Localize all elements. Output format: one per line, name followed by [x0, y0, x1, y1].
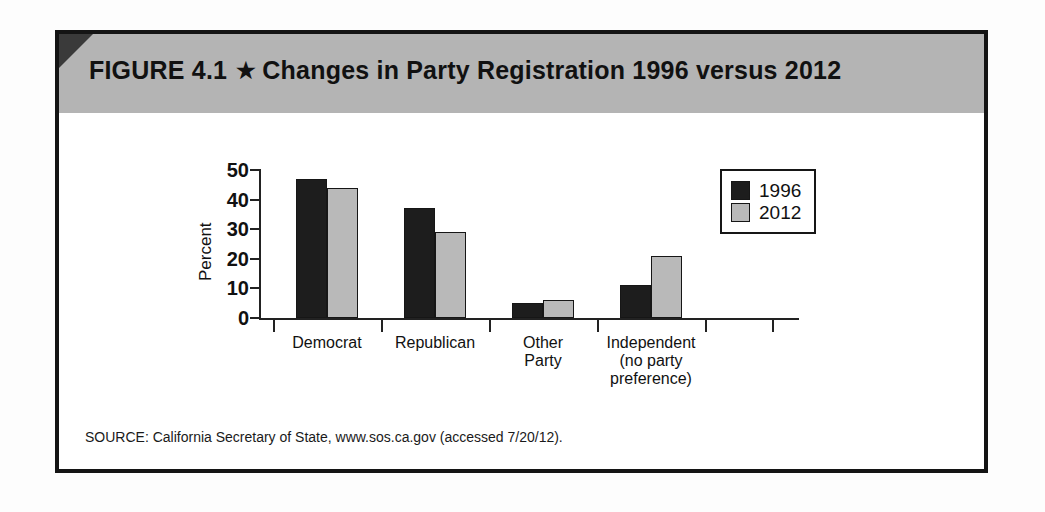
- x-separator-tick: [705, 320, 707, 332]
- category-label-line: Independent: [581, 334, 721, 352]
- x-separator-tick: [772, 320, 774, 332]
- legend-swatch-2012-icon: [731, 203, 750, 222]
- figure-title-text: Changes in Party Registration 1996 versu…: [262, 56, 841, 84]
- x-separator-tick: [489, 320, 491, 332]
- source-note: SOURCE: California Secretary of State, w…: [85, 429, 563, 445]
- bar-1996-democrat: [296, 179, 327, 318]
- legend-item: 1996: [731, 181, 801, 200]
- legend-swatch-1996-icon: [731, 181, 750, 200]
- corner-triangle-icon: [59, 34, 93, 68]
- star-icon: ★: [230, 58, 262, 83]
- bar-2012-independent: [651, 256, 682, 318]
- legend-item: 2012: [731, 203, 801, 222]
- category-label-line: (no party: [581, 352, 721, 370]
- bar-2012-republican: [435, 232, 466, 318]
- chart-plot-area: Percent 01020304050 DemocratRepublicanOt…: [59, 113, 984, 477]
- x-axis-line: [259, 318, 799, 320]
- bar-1996-independent: [620, 285, 651, 318]
- chart-legend: 1996 2012: [720, 169, 816, 234]
- legend-label-1996: 1996: [759, 181, 801, 200]
- bars-layer: [259, 170, 799, 318]
- y-tick-label: 0: [209, 308, 249, 328]
- y-tick-label: 20: [209, 249, 249, 269]
- y-tick-label: 10: [209, 278, 249, 298]
- bar-1996-other: [512, 303, 543, 318]
- bar-1996-republican: [404, 208, 435, 318]
- y-tick-label: 40: [209, 190, 249, 210]
- x-separator-tick: [597, 320, 599, 332]
- y-tick-label: 30: [209, 219, 249, 239]
- figure-number: FIGURE 4.1: [89, 56, 230, 84]
- figure-title: FIGURE 4.1★Changes in Party Registration…: [89, 56, 841, 85]
- legend-label-2012: 2012: [759, 203, 801, 222]
- x-separator-tick: [273, 320, 275, 332]
- category-label-line: preference): [581, 370, 721, 388]
- figure-header-band: FIGURE 4.1★Changes in Party Registration…: [59, 34, 984, 113]
- bar-2012-democrat: [327, 188, 358, 318]
- figure-box: FIGURE 4.1★Changes in Party Registration…: [55, 30, 988, 473]
- bar-2012-other: [543, 300, 574, 318]
- y-tick-label: 50: [209, 160, 249, 180]
- category-label: Independent(no partypreference): [581, 334, 721, 388]
- x-separator-tick: [381, 320, 383, 332]
